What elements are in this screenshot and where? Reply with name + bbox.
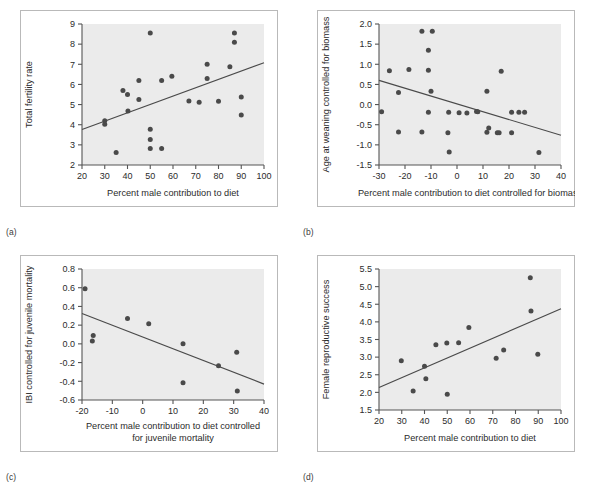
x-axis-title: Percent male contribution to diet: [107, 188, 239, 198]
y-tick-label: -0.6: [59, 395, 75, 405]
data-point: [406, 67, 411, 72]
data-point: [159, 146, 164, 151]
y-tick-label: 4.0: [359, 317, 372, 327]
x-axis-title: Percent male contribution to diet contro…: [358, 188, 575, 198]
x-tick-label: 30: [100, 171, 110, 181]
data-point: [419, 29, 424, 34]
panel-plot-b: -1.5-1.0-0.50.00.51.01.52.0-30-20-100102…: [317, 10, 575, 207]
x-tick-label: 20: [504, 171, 514, 181]
y-tick-label: 0.8: [62, 264, 75, 274]
x-tick-label: -10: [424, 171, 437, 181]
x-tick-label: 0: [454, 171, 459, 181]
data-point: [536, 150, 541, 155]
data-point: [475, 109, 480, 114]
y-tick-label: -0.2: [59, 358, 75, 368]
data-point: [232, 31, 237, 36]
x-tick-label: 30: [397, 416, 407, 426]
data-point: [90, 339, 95, 344]
data-point: [464, 111, 469, 116]
data-point: [396, 90, 401, 95]
panel-d: (d) 1.52.02.53.03.54.04.55.05.5203040506…: [297, 245, 594, 490]
data-point: [396, 129, 401, 134]
data-point: [205, 76, 210, 81]
data-point: [447, 150, 452, 155]
y-tick-label: 8: [70, 39, 75, 49]
data-point: [234, 350, 239, 355]
x-tick-label: -20: [398, 171, 411, 181]
data-point: [444, 341, 449, 346]
y-tick-label: 3.0: [359, 352, 372, 362]
plot-background: [379, 24, 561, 165]
data-point: [148, 137, 153, 142]
data-point: [125, 92, 130, 97]
y-tick-label: 1.0: [359, 60, 372, 70]
data-point: [197, 100, 202, 105]
data-point: [216, 363, 221, 368]
data-point: [239, 94, 244, 99]
x-tick-label: 40: [122, 171, 132, 181]
y-tick-label: 0.0: [62, 339, 75, 349]
x-tick-label: 50: [145, 171, 155, 181]
data-point: [102, 122, 107, 127]
panel-a: (a) 234567892030405060708090100Percent m…: [0, 0, 297, 245]
y-axis-title: Female reproductive success: [321, 279, 331, 399]
y-tick-label: 0.2: [62, 320, 75, 330]
y-tick-label: 3: [70, 140, 75, 150]
x-tick-label: 30: [229, 406, 239, 416]
data-point: [429, 89, 434, 94]
data-point: [484, 130, 489, 135]
data-point: [457, 110, 462, 115]
y-tick-label: 5: [70, 100, 75, 110]
data-point: [422, 364, 427, 369]
x-tick-label: 100: [553, 416, 568, 426]
data-point: [91, 333, 96, 338]
y-tick-label: 5.5: [359, 264, 372, 274]
data-point: [148, 31, 153, 36]
data-point: [446, 110, 451, 115]
panel-b-tag: (b): [303, 227, 314, 237]
y-tick-label: 2: [70, 160, 75, 170]
x-tick-label: 40: [259, 406, 269, 416]
y-tick-label: 2.5: [359, 370, 372, 380]
y-tick-label: -0.5: [356, 120, 372, 130]
data-point: [114, 150, 119, 155]
data-point: [528, 275, 533, 280]
data-point: [148, 146, 153, 151]
data-point: [411, 388, 416, 393]
y-tick-label: 6: [70, 80, 75, 90]
data-point: [205, 62, 210, 67]
data-point: [120, 88, 125, 93]
data-point: [456, 340, 461, 345]
panel-b: (b) -1.5-1.0-0.50.00.51.01.52.0-30-20-10…: [297, 0, 594, 245]
panel-plot-a: 234567892030405060708090100Percent male …: [20, 10, 278, 207]
panel-d-tag: (d): [303, 472, 314, 482]
x-tick-label: 60: [168, 171, 178, 181]
y-tick-label: 9: [70, 19, 75, 29]
data-point: [232, 40, 237, 45]
panel-a-tag: (a): [6, 227, 17, 237]
x-axis-title: Percent male contribution to diet contro…: [86, 421, 260, 431]
data-point: [227, 64, 232, 69]
y-axis-title: Total fertility rate: [24, 61, 34, 128]
panel-c-tag: (c): [6, 472, 16, 482]
x-tick-label: 70: [191, 171, 201, 181]
data-point: [516, 110, 521, 115]
data-point: [445, 392, 450, 397]
data-point: [387, 68, 392, 73]
x-axis-title: for juvenile mortality: [132, 433, 214, 443]
x-tick-label: 10: [478, 171, 488, 181]
plot-background: [379, 269, 561, 410]
x-tick-label: 40: [556, 171, 566, 181]
x-tick-label: 80: [213, 171, 223, 181]
x-tick-label: 10: [168, 406, 178, 416]
x-tick-label: 20: [374, 416, 384, 426]
plot-background: [82, 24, 264, 165]
data-point: [379, 109, 384, 114]
data-point: [125, 316, 130, 321]
y-tick-label: -1.5: [356, 160, 372, 170]
data-point: [146, 321, 151, 326]
data-point: [159, 78, 164, 83]
data-point: [136, 78, 141, 83]
data-point: [486, 125, 491, 130]
y-axis-title: IBI controlled for juvenile mortality: [24, 265, 34, 403]
